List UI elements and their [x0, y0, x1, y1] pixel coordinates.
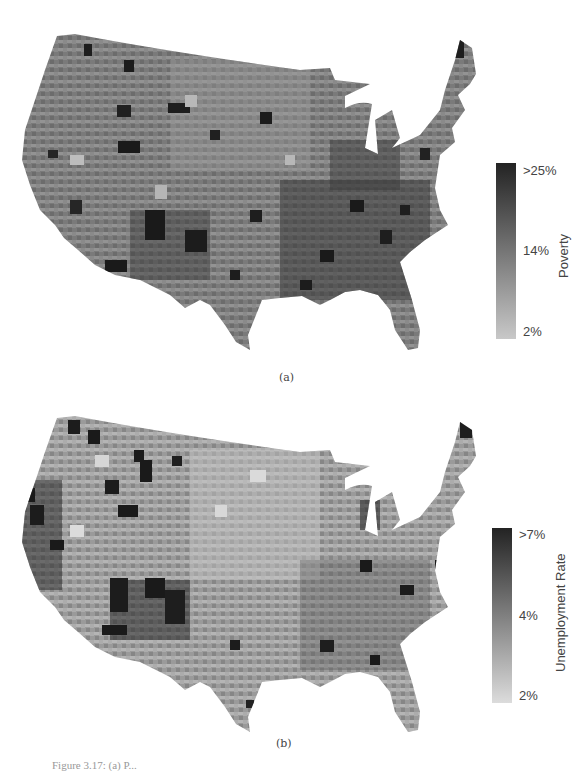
subfigure-label-b: (b) [276, 737, 292, 750]
figure-caption-truncated: Figure 3.17: (a) P... [52, 759, 137, 771]
unemployment-tick-top: >7% [519, 527, 545, 542]
unemployment-tick-mid: 4% [519, 608, 538, 623]
unemployment-colorbar [492, 528, 512, 703]
unemployment-tick-bottom: 2% [519, 688, 538, 703]
unemployment-colorbar-title: Unemployment Rate [553, 554, 568, 673]
